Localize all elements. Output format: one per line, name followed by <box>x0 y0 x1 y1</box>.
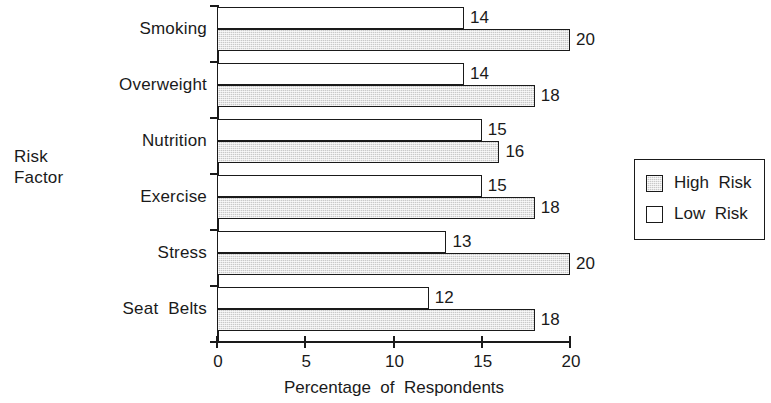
bar-nutrition-low-risk <box>217 119 482 141</box>
legend-label-low-risk: Low Risk <box>674 204 748 224</box>
x-axis-tick <box>216 336 218 348</box>
x-axis-tick <box>569 336 571 348</box>
bar-stress-high-risk <box>217 253 570 275</box>
bar-value-exercise-high-risk: 18 <box>541 198 560 218</box>
bar-chart: Risk Factor Smoking Overweight Nutrition… <box>0 0 771 403</box>
bar-overweight-low-risk <box>217 63 464 85</box>
legend-item-low-risk[interactable]: Low Risk <box>646 204 748 224</box>
bar-seat-belts-low-risk <box>217 287 429 309</box>
plot-area: 142014181516151813201218 <box>217 6 570 342</box>
bar-exercise-high-risk <box>217 197 535 219</box>
bar-value-overweight-low-risk: 14 <box>470 64 489 84</box>
x-axis-tick <box>304 336 306 348</box>
bar-value-seat-belts-low-risk: 12 <box>435 288 454 308</box>
bar-value-nutrition-low-risk: 15 <box>488 120 507 140</box>
legend: High Risk Low Risk <box>634 159 765 240</box>
bar-overweight-high-risk <box>217 85 535 107</box>
bar-value-smoking-high-risk: 20 <box>576 30 595 50</box>
legend-swatch-high-risk-icon <box>646 175 663 192</box>
bar-stress-low-risk <box>217 231 446 253</box>
legend-item-high-risk[interactable]: High Risk <box>646 173 751 193</box>
bar-value-smoking-low-risk: 14 <box>470 8 489 28</box>
x-axis-tick <box>481 336 483 348</box>
bar-value-seat-belts-high-risk: 18 <box>541 310 560 330</box>
bar-value-stress-low-risk: 13 <box>452 232 471 252</box>
x-axis-tick <box>393 336 395 348</box>
bar-smoking-high-risk <box>217 29 570 51</box>
category-label-nutrition: Nutrition <box>0 131 207 151</box>
x-axis-tick-label-5: 5 <box>276 352 336 372</box>
bar-nutrition-high-risk <box>217 141 499 163</box>
bar-value-nutrition-high-risk: 16 <box>505 142 524 162</box>
x-axis-tick-label-10: 10 <box>365 352 425 372</box>
category-label-smoking: Smoking <box>0 19 207 39</box>
x-axis-tick-label-15: 15 <box>453 352 513 372</box>
category-label-exercise: Exercise <box>0 187 207 207</box>
x-axis-tick-label-0: 0 <box>188 352 248 372</box>
bar-value-stress-high-risk: 20 <box>576 254 595 274</box>
category-label-seat-belts: Seat Belts <box>0 299 207 319</box>
x-axis-tick-label-20: 20 <box>541 352 601 372</box>
category-label-overweight: Overweight <box>0 75 207 95</box>
y-axis-title: Risk Factor <box>14 146 110 188</box>
bar-value-exercise-low-risk: 15 <box>488 176 507 196</box>
bar-value-overweight-high-risk: 18 <box>541 86 560 106</box>
x-axis-title: Percentage of Respondents <box>217 378 571 398</box>
legend-label-high-risk: High Risk <box>674 173 751 193</box>
bar-smoking-low-risk <box>217 7 464 29</box>
legend-swatch-low-risk-icon <box>646 206 663 223</box>
bar-exercise-low-risk <box>217 175 482 197</box>
bar-seat-belts-high-risk <box>217 309 535 331</box>
category-label-stress: Stress <box>0 243 207 263</box>
